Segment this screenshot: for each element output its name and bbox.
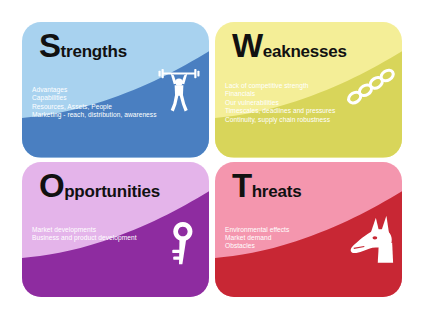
swot-card-strengths[interactable]: Strengths Advantages Capabilities Resour…	[22, 22, 209, 158]
swot-card-threats[interactable]: Threats Environmental effects Market dem…	[215, 162, 402, 298]
card-initial: T	[232, 167, 252, 204]
swot-diagram: Strengths Advantages Capabilities Resour…	[0, 0, 424, 319]
list-item: Marketing - reach, distribution, awarene…	[32, 111, 157, 119]
card-item-list-strengths: Advantages Capabilities Resources, Asset…	[32, 86, 157, 120]
card-item-list-opportunities: Market developments Business and product…	[32, 226, 137, 243]
card-title-rest: pportunities	[64, 182, 160, 201]
list-item: Advantages	[32, 86, 157, 94]
card-initial: S	[39, 27, 61, 64]
card-initial: O	[39, 167, 64, 204]
list-item: Business and product development	[32, 234, 137, 242]
card-item-list-threats: Environmental effects Market demand Obst…	[225, 226, 289, 251]
card-title-weaknesses: Weaknesses	[232, 29, 347, 62]
list-item: Continuity, supply chain robustness	[225, 116, 335, 124]
key-icon	[159, 220, 199, 268]
dog-head-icon	[348, 214, 396, 266]
list-item: Financials	[225, 90, 335, 98]
list-item: Our vulnerabilities	[225, 99, 335, 107]
list-item: Capabilities	[32, 94, 157, 102]
list-item: Obstacles	[225, 242, 289, 250]
card-title-threats: Threats	[232, 169, 302, 202]
swot-card-weaknesses[interactable]: Weaknesses Lack of competitive strength …	[215, 22, 402, 158]
card-title-strengths: Strengths	[39, 29, 127, 62]
list-item: Market developments	[32, 226, 137, 234]
card-title-rest: eaknesses	[263, 42, 347, 61]
card-item-list-weaknesses: Lack of competitive strength Financials …	[225, 82, 335, 124]
list-item: Resources, Assets, People	[32, 103, 157, 111]
chain-links-icon	[346, 66, 398, 108]
weightlifter-icon	[157, 66, 201, 114]
card-title-opportunities: Opportunities	[39, 169, 160, 202]
swot-card-opportunities[interactable]: Opportunities Market developments Busine…	[22, 162, 209, 298]
list-item: Lack of competitive strength	[225, 82, 335, 90]
list-item: Market demand	[225, 234, 289, 242]
list-item: Timescales, deadlines and pressures	[225, 107, 335, 115]
card-title-rest: trengths	[61, 42, 127, 61]
card-initial: W	[232, 27, 263, 64]
card-title-rest: hreats	[252, 182, 302, 201]
list-item: Environmental effects	[225, 226, 289, 234]
